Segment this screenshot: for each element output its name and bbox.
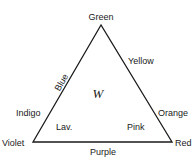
vertex-label-bottom-left: Violet <box>2 138 25 148</box>
interior-label-lower-right: Pink <box>127 122 145 132</box>
color-triangle-diagram: Green Violet Red Blue Indigo Yellow Oran… <box>0 0 196 159</box>
edge-label-right-upper: Yellow <box>128 56 154 66</box>
interior-label-lower-left: Lav. <box>56 122 72 132</box>
triangle-outline <box>33 25 172 142</box>
interior-label-center: W <box>93 86 105 101</box>
vertex-label-top: Green <box>88 12 113 22</box>
edge-label-left-lower: Indigo <box>16 108 41 118</box>
edge-label-bottom: Purple <box>90 147 116 157</box>
vertex-label-bottom-right: Red <box>175 138 192 148</box>
edge-label-right-lower: Orange <box>158 108 188 118</box>
